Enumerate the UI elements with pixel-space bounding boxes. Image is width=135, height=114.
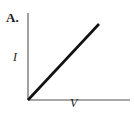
data-line-iv [28, 24, 99, 100]
figure-panel: A. I V [0, 0, 135, 114]
x-axis-label: V [70, 97, 77, 110]
y-axis-label: I [13, 51, 17, 64]
plot-area [0, 0, 135, 114]
